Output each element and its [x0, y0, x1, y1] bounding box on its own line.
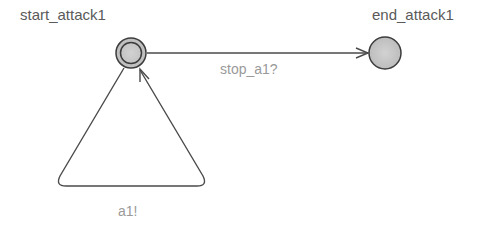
edge-loop-a1[interactable]	[58, 68, 204, 186]
edge-label-a1: a1!	[118, 203, 137, 219]
location-label-start: start_attack1	[20, 6, 106, 23]
automaton-canvas	[0, 0, 497, 228]
location-end-attack1[interactable]	[369, 37, 401, 69]
arrowhead-icon	[140, 69, 149, 82]
location-label-end: end_attack1	[372, 6, 454, 23]
location-start-attack1[interactable]	[116, 38, 146, 68]
edge-label-stop-a1: stop_a1?	[220, 61, 278, 77]
edge-stop-a1[interactable]	[147, 48, 368, 58]
